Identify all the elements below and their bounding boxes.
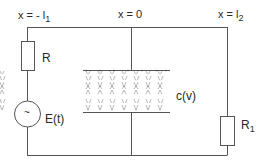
label-resistor-left: R: [42, 53, 51, 64]
label-source: E(t): [45, 114, 64, 125]
label-origin: x = 0: [118, 9, 142, 20]
circuit-diagram: [0, 0, 263, 166]
label-capacitor: c(v): [176, 91, 196, 102]
label-left-boundary: x = - l1: [18, 10, 50, 22]
label-source-symbol: ~: [24, 107, 30, 118]
capacitor-field-pattern: [0, 71, 163, 110]
label-right-boundary: x = l2: [218, 9, 244, 21]
resistor-right-icon: [221, 117, 235, 146]
resistor-left-icon: [22, 42, 35, 71]
label-resistor-right: R1: [241, 120, 255, 132]
